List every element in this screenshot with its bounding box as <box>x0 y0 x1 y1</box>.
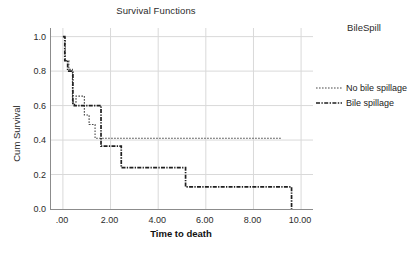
x-tick-label: 4.00 <box>148 215 166 225</box>
x-tick-label: .00 <box>56 215 69 225</box>
x-tick-label: 10.00 <box>289 215 312 225</box>
plot-svg <box>51 28 313 209</box>
gridlines <box>51 28 313 209</box>
x-tick-label: 2.00 <box>101 215 119 225</box>
series-line-1 <box>63 37 282 139</box>
y-axis-label: Cum Survival <box>11 74 22 194</box>
survival-chart: Survival Functions BileSpill No bile spi… <box>0 0 416 258</box>
x-tick-label: 8.00 <box>244 215 262 225</box>
y-axis-label-holder: Cum Survival <box>2 48 16 168</box>
series-paths <box>63 37 292 209</box>
x-axis-label: Time to death <box>50 228 312 239</box>
plot-area <box>50 28 313 210</box>
series-line-2 <box>63 37 292 209</box>
x-tick-label: 6.00 <box>196 215 214 225</box>
